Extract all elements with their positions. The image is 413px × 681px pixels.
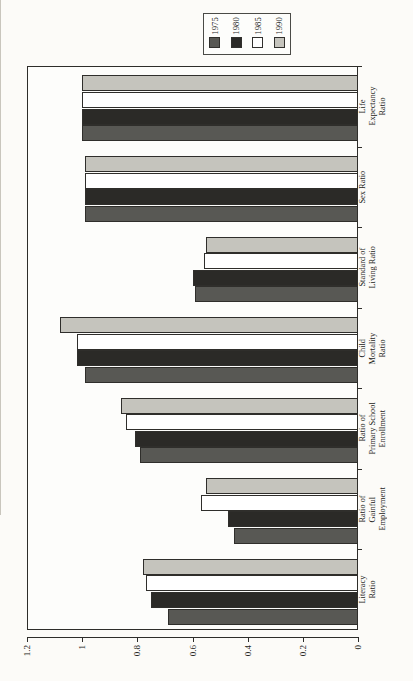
- bar-1985: [126, 414, 358, 430]
- x-tick: [27, 637, 28, 642]
- page-margin-rule: [0, 0, 1, 515]
- legend-item-1980: 1980: [226, 17, 246, 48]
- bar-1975: [234, 528, 358, 544]
- bar-group: [27, 156, 358, 222]
- category-label: Standard of Living Ratio: [358, 227, 413, 308]
- x-tick: [303, 637, 304, 642]
- bar-1985: [204, 253, 358, 269]
- legend-label: 1980: [232, 17, 241, 35]
- legend-label: 1975: [211, 17, 220, 35]
- swatch-1975: [209, 37, 220, 48]
- legend-item-1975: 1975: [205, 17, 225, 48]
- bar-1990: [60, 317, 358, 333]
- scanned-page: 1975198019851990 Life Expectancy RatioSe…: [0, 0, 413, 681]
- category-label: Life Expectancy Ratio: [358, 66, 413, 147]
- legend-item-1985: 1985: [248, 17, 268, 48]
- bar-1975: [168, 609, 358, 625]
- bar-1975: [85, 367, 358, 383]
- bar-group: [27, 75, 358, 141]
- bar-1985: [201, 495, 358, 511]
- x-tick: [137, 637, 138, 642]
- legend-items: 1975198019851990: [204, 14, 290, 54]
- bar-1980: [228, 511, 358, 527]
- category-label: Literacy Ratio: [358, 549, 413, 630]
- bar-1985: [77, 334, 358, 350]
- x-tick-label: 1: [77, 645, 87, 650]
- bar-group: [27, 398, 358, 464]
- bar-group: [27, 478, 358, 544]
- chart-legend: 1975198019851990: [203, 13, 291, 55]
- x-tick: [82, 637, 83, 642]
- bar-1980: [193, 270, 359, 286]
- x-tick: [248, 637, 249, 642]
- category-label: Ratio of Primary School Enrollment: [358, 388, 413, 469]
- bar-1990: [121, 398, 358, 414]
- bar-1990: [206, 478, 358, 494]
- bar-1990: [85, 156, 358, 172]
- bar-1985: [82, 92, 358, 108]
- swatch-1990: [274, 37, 285, 48]
- bar-1990: [206, 237, 358, 253]
- bar-1975: [195, 286, 358, 302]
- bar-1985: [85, 173, 358, 189]
- category-label: Sex Ratio: [358, 147, 413, 228]
- legend-item-1990: 1990: [269, 17, 289, 48]
- bar-1980: [82, 109, 358, 125]
- bar-1975: [82, 125, 358, 141]
- x-tick: [358, 637, 359, 642]
- bar-1980: [77, 350, 358, 366]
- legend-label: 1985: [254, 17, 263, 35]
- x-tick-label: 0.8: [132, 645, 142, 656]
- plot-area: [27, 66, 358, 630]
- x-tick: [193, 637, 194, 642]
- x-tick-label: 0.6: [188, 645, 198, 656]
- bar-1980: [85, 189, 358, 205]
- bar-group: [27, 237, 358, 303]
- bar-group: [27, 317, 358, 383]
- bar-1980: [135, 431, 358, 447]
- x-tick-label: 0: [353, 645, 363, 650]
- category-label: Ratio of Gainful Employment: [358, 469, 413, 550]
- x-tick-label: 1.2: [22, 645, 32, 656]
- bar-1975: [140, 447, 358, 463]
- category-label: Child Mortality Ratio: [358, 308, 413, 389]
- bar-1975: [85, 206, 358, 222]
- bar-1990: [82, 75, 358, 91]
- bar-1985: [146, 575, 358, 591]
- x-tick-label: 0.2: [298, 645, 308, 656]
- x-tick-label: 0.4: [243, 645, 253, 656]
- bar-1980: [151, 592, 358, 608]
- legend-label: 1990: [275, 17, 284, 35]
- bar-group: [27, 559, 358, 625]
- swatch-1980: [231, 37, 242, 48]
- swatch-1985: [252, 37, 263, 48]
- bar-1990: [143, 559, 358, 575]
